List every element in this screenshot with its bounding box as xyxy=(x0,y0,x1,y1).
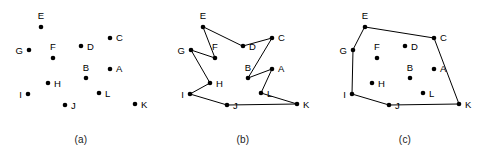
point-dot-e xyxy=(201,25,206,30)
point-dot-f xyxy=(213,56,218,61)
point-dot-g xyxy=(189,48,194,53)
point-dot-g xyxy=(351,48,356,53)
point-dot-b xyxy=(246,76,251,81)
point-dot-k xyxy=(133,102,138,107)
point-dot-k xyxy=(295,102,300,107)
point-label-b: B xyxy=(83,62,89,73)
point-label-e: E xyxy=(200,10,206,21)
point-dot-l xyxy=(421,91,426,96)
point-label-f: F xyxy=(212,41,218,52)
figure-root: ABCDEFGHIJKL (a) ABCDEFGHIJKL (b) ABCDEF… xyxy=(0,0,486,165)
point-dot-l xyxy=(259,91,264,96)
point-dot-l xyxy=(97,91,102,96)
point-dot-f xyxy=(51,56,56,61)
point-dot-j xyxy=(63,103,68,108)
point-label-k: K xyxy=(465,99,472,110)
point-label-j: J xyxy=(71,100,76,111)
point-dot-j xyxy=(225,103,230,108)
point-dot-i xyxy=(26,92,31,97)
panel-b-canvas: ABCDEFGHIJKL xyxy=(162,0,324,135)
panel-a-caption: (a) xyxy=(0,134,162,145)
point-label-c: C xyxy=(278,32,285,43)
panel-c-canvas: ABCDEFGHIJKL xyxy=(324,0,486,135)
point-dot-d xyxy=(403,44,408,49)
point-dot-c xyxy=(432,36,437,41)
point-dot-b xyxy=(408,76,413,81)
point-dot-c xyxy=(108,36,113,41)
panel-c: ABCDEFGHIJKL (c) xyxy=(324,0,486,165)
point-dot-i xyxy=(188,92,193,97)
point-label-i: I xyxy=(343,89,346,100)
point-dot-j xyxy=(387,103,392,108)
point-label-e: E xyxy=(38,10,44,21)
point-label-i: I xyxy=(181,89,184,100)
point-label-g: G xyxy=(178,45,185,56)
point-label-i: I xyxy=(19,89,22,100)
point-dot-e xyxy=(363,25,368,30)
point-label-k: K xyxy=(141,99,148,110)
point-dot-f xyxy=(375,56,380,61)
point-label-g: G xyxy=(16,45,23,56)
panel-a: ABCDEFGHIJKL (a) xyxy=(0,0,162,165)
point-label-c: C xyxy=(116,32,123,43)
panel-b-caption: (b) xyxy=(162,134,324,145)
point-label-c: C xyxy=(440,32,447,43)
point-label-g: G xyxy=(340,45,347,56)
panel-b: ABCDEFGHIJKL (b) xyxy=(162,0,324,165)
point-label-h: H xyxy=(216,78,223,89)
point-label-b: B xyxy=(245,62,251,73)
point-label-b: B xyxy=(407,62,413,73)
point-label-a: A xyxy=(116,63,123,74)
point-label-l: L xyxy=(429,88,434,99)
point-dot-k xyxy=(457,102,462,107)
point-label-f: F xyxy=(50,41,56,52)
panel-c-caption: (c) xyxy=(324,134,486,145)
panel-a-canvas: ABCDEFGHIJKL xyxy=(0,0,162,135)
point-label-d: D xyxy=(87,41,94,52)
point-label-a: A xyxy=(278,63,285,74)
point-dot-d xyxy=(241,44,246,49)
point-dot-i xyxy=(350,92,355,97)
point-dot-e xyxy=(39,25,44,30)
point-label-l: L xyxy=(267,88,272,99)
point-dot-b xyxy=(84,76,89,81)
point-label-e: E xyxy=(362,10,368,21)
point-label-j: J xyxy=(233,100,238,111)
point-label-d: D xyxy=(411,41,418,52)
point-dot-g xyxy=(27,48,32,53)
point-dot-h xyxy=(208,81,213,86)
point-label-a: A xyxy=(440,63,447,74)
point-dot-d xyxy=(79,44,84,49)
point-label-k: K xyxy=(303,99,310,110)
point-label-j: J xyxy=(395,100,400,111)
point-dot-h xyxy=(46,81,51,86)
point-label-l: L xyxy=(105,88,110,99)
point-label-h: H xyxy=(378,78,385,89)
point-dot-a xyxy=(270,67,275,72)
point-dot-h xyxy=(370,81,375,86)
point-dot-a xyxy=(432,67,437,72)
point-dot-c xyxy=(270,36,275,41)
point-dot-a xyxy=(108,67,113,72)
point-label-h: H xyxy=(54,78,61,89)
point-label-f: F xyxy=(374,41,380,52)
point-label-d: D xyxy=(249,41,256,52)
